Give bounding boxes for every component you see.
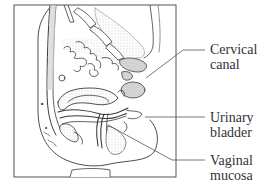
label-line: canal [210,57,257,72]
label-urinary-bladder: Urinary bladder [210,110,254,140]
label-line: Urinary [210,110,254,125]
label-line: Vaginal [210,153,253,168]
label-line: mucosa [210,168,253,183]
label-line: Cervical [210,42,257,57]
label-vaginal-mucosa: Vaginal mucosa [210,153,253,183]
label-cervical-canal: Cervical canal [210,42,257,72]
label-line: bladder [210,125,254,140]
anatomy-figure: Cervical canal Urinary bladder Vaginal m… [0,0,265,194]
